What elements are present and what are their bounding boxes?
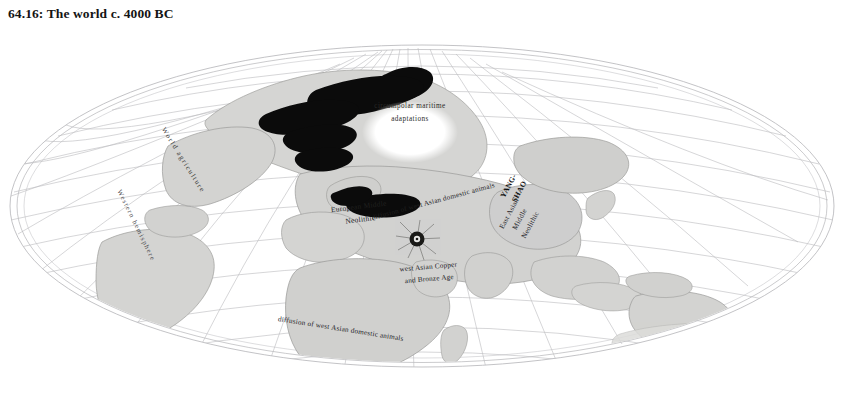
land-madagascar (441, 326, 468, 364)
land-india (465, 253, 513, 299)
page-title: 64.16: The world c. 4000 BC (8, 6, 174, 22)
land-north-america-fringe (162, 127, 275, 206)
landmasses (96, 67, 794, 376)
land-antarctica-fringe (612, 323, 794, 369)
map-page: 64.16: The world c. 4000 BC (0, 0, 845, 419)
land-japan (586, 191, 615, 220)
land-south-america (96, 229, 214, 338)
map-canvas (0, 24, 845, 419)
land-central-america (145, 206, 209, 238)
land-australia (629, 291, 733, 349)
land-antarctica-fringe-left (103, 348, 262, 375)
land-western-europe (282, 212, 365, 262)
world-map: circumpolar maritime adaptations Europea… (0, 24, 845, 419)
pole-label-halo (362, 101, 458, 163)
